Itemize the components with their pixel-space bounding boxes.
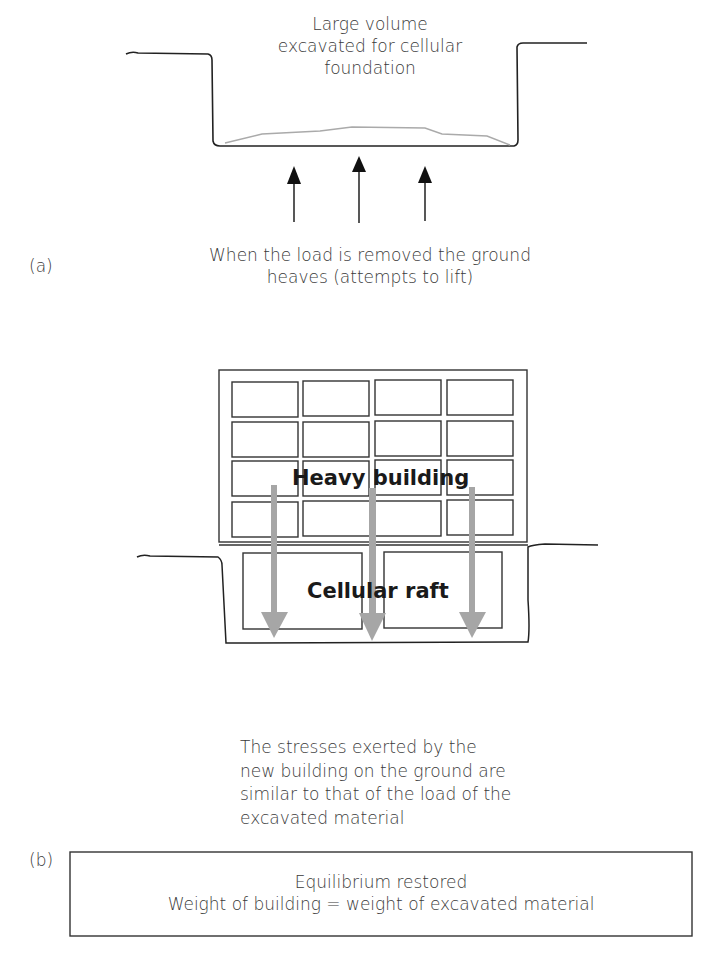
panel-b-label: (b)	[29, 849, 53, 871]
stress-caption-line: new building on the ground are	[240, 760, 511, 784]
heave-caption: When the load is removed the ground heav…	[180, 244, 560, 288]
panel-a-label: (a)	[29, 255, 53, 277]
stress-caption-line: The stresses exerted by the	[240, 736, 511, 760]
stress-caption-line: excavated material	[240, 807, 511, 831]
heave-caption-line: heaves (attempts to lift)	[180, 266, 560, 288]
excavation-label-line: excavated for cellular	[230, 35, 510, 57]
raft-label: Cellular raft	[307, 579, 449, 603]
heave-arrows	[287, 156, 432, 223]
heave-ground-line	[225, 127, 510, 145]
equilibrium-text: Equilibrium restored Weight of building …	[70, 871, 692, 915]
stress-caption: The stresses exerted by the new building…	[240, 736, 511, 830]
excavation-label-line: Large volume	[230, 13, 510, 35]
excavation-label-line: foundation	[230, 57, 510, 79]
building-label: Heavy building	[292, 466, 469, 490]
stress-arrows	[261, 485, 486, 641]
stress-caption-line: similar to that of the load of the	[240, 783, 511, 807]
equilibrium-title: Equilibrium restored	[70, 871, 692, 893]
equilibrium-equation: Weight of building = weight of excavated…	[70, 893, 692, 915]
excavation-label: Large volume excavated for cellular foun…	[230, 13, 510, 79]
heave-caption-line: When the load is removed the ground	[180, 244, 560, 266]
